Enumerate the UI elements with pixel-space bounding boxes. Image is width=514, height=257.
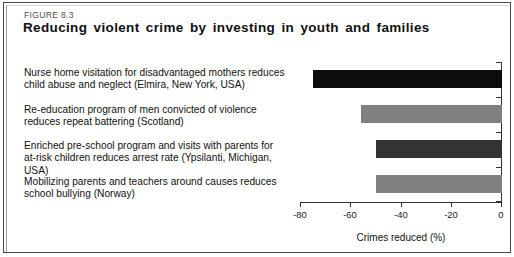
- bar-category-label-1: Nurse home visitation for disadvantaged …: [24, 67, 296, 92]
- bar-category-label-2: Re-education program of men convicted of…: [24, 104, 296, 129]
- y-axis-tick-2: [496, 132, 502, 133]
- bar-category-label-2-line2: reduces repeat battering (Scotland): [24, 116, 296, 128]
- plot-area: -80 -60 -40 -20 0: [300, 62, 502, 202]
- x-axis-label-minus80: -80: [293, 209, 307, 220]
- y-axis-tick-1: [496, 97, 502, 98]
- bar-category-label-3-line2: at-risk children reduces arrest rate (Yp…: [24, 152, 296, 177]
- x-axis-tick-minus60: [350, 202, 351, 207]
- x-axis-label-zero: 0: [498, 209, 503, 220]
- y-axis-tick-0: [496, 62, 502, 63]
- y-axis-tick-3: [496, 167, 502, 168]
- bar-category-label-3-line1: Enriched pre-school program and visits w…: [24, 140, 273, 151]
- bar-category-label-1-line2: child abuse and neglect (Elmira, New Yor…: [24, 79, 296, 91]
- x-axis-tick-zero: [501, 202, 502, 207]
- bar-category-label-3: Enriched pre-school program and visits w…: [24, 140, 296, 177]
- bar-category-label-2-line1: Re-education program of men convicted of…: [24, 104, 257, 115]
- bar-category-label-4-line1: Mobilizing parents and teachers around c…: [24, 176, 277, 187]
- bar-category-label-1-line1: Nurse home visitation for disadvantaged …: [24, 67, 284, 78]
- x-axis-label-minus60: -60: [343, 209, 357, 220]
- x-axis-tick-minus80: [300, 202, 301, 207]
- x-axis-tick-minus40: [401, 202, 402, 207]
- bar-3: [376, 140, 502, 158]
- figure-container: FIGURE 8.3 Reducing violent crime by inv…: [0, 0, 514, 257]
- x-axis-tick-minus20: [451, 202, 452, 207]
- bar-4: [376, 175, 502, 193]
- bar-category-label-4: Mobilizing parents and teachers around c…: [24, 176, 296, 201]
- x-axis-label-minus40: -40: [394, 209, 408, 220]
- bar-chart: Nurse home visitation for disadvantaged …: [0, 0, 514, 257]
- x-axis-title: Crimes reduced (%): [300, 232, 502, 243]
- bar-2: [361, 105, 502, 123]
- bar-category-label-4-line2: school bullying (Norway): [24, 188, 296, 200]
- bar-1: [313, 70, 502, 88]
- x-axis-label-minus20: -20: [444, 209, 458, 220]
